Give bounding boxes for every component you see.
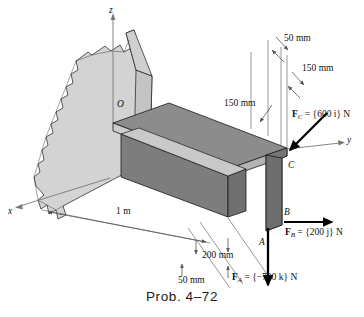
z-axis-label: z	[109, 6, 113, 16]
dimension-50mm-bottom-label: 50 mm	[178, 276, 205, 286]
dimension-lines-upper	[251, 40, 287, 148]
force-c-subscript: C	[298, 113, 303, 121]
force-c-label: FC = {600 i} N	[292, 110, 350, 121]
figure-caption: Prob. 4–72	[0, 289, 364, 304]
force-a-value: {−700 k} N	[252, 272, 297, 282]
force-b-value: {200 j} N	[305, 227, 343, 237]
force-a-equals: =	[244, 272, 249, 282]
force-b-label: FB = {200 j} N	[285, 228, 343, 239]
end-block	[266, 148, 287, 231]
figure-drawing	[0, 0, 364, 317]
y-axis-label: y	[347, 136, 351, 146]
problem-figure: z x y O A B C 50 mm 150 mm 150 mm 1 m 20…	[0, 0, 364, 317]
force-b-equals: =	[297, 227, 302, 237]
dimension-150mm-right-label: 150 mm	[302, 64, 333, 74]
point-a-label: A	[259, 238, 265, 248]
force-a-subscript: A	[238, 276, 242, 284]
force-b-subscript: B	[291, 231, 295, 239]
x-axis-label: x	[8, 207, 12, 217]
force-c-equals: =	[305, 109, 310, 119]
dimension-200mm-label: 200 mm	[202, 251, 233, 261]
dimension-150mm-left-label: 150 mm	[224, 99, 255, 109]
dimension-1m-label: 1 m	[116, 207, 131, 217]
point-c-label: C	[288, 161, 294, 171]
point-o-label: O	[117, 100, 124, 110]
force-c-value: {600 i} N	[313, 109, 351, 119]
dimension-50mm-top-label: 50 mm	[284, 34, 311, 44]
force-a-label: FA = {−700 k} N	[232, 273, 297, 284]
point-b-label: B	[284, 208, 290, 218]
